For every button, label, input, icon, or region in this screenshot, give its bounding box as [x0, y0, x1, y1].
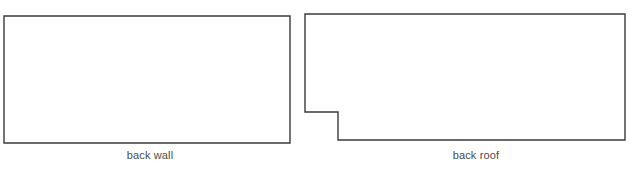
- shape-back-roof: [305, 14, 625, 140]
- shape-back-wall: [4, 16, 290, 143]
- shape-label-back-roof: back roof: [330, 148, 622, 162]
- shape-label-back-wall: back wall: [0, 148, 300, 162]
